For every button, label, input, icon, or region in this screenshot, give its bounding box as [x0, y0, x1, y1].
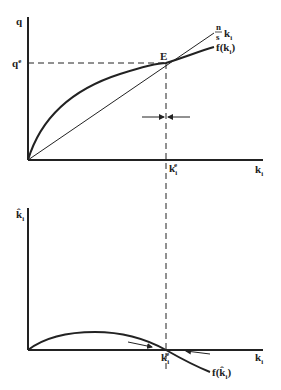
production-curve-label: f(ki): [216, 41, 235, 56]
bottom-panel: k̂i kie ki f(k̂i): [16, 208, 263, 381]
k-hat-curve: [28, 332, 210, 372]
solow-diagram: q qe E n s ki f(ki) kie ki k̂i kie ki f(…: [0, 0, 281, 390]
ns-line-label: ki: [224, 27, 232, 42]
arrow-left-bottom: [186, 351, 210, 354]
ns-k-line: [28, 33, 214, 160]
production-curve: [28, 47, 214, 160]
ns-fraction-num: n: [216, 22, 221, 32]
top-x-axis-label: ki: [255, 163, 263, 178]
bottom-k-equilibrium-label: kie: [161, 350, 169, 366]
q-equilibrium-label: qe: [12, 57, 21, 69]
top-y-axis-label: q: [16, 15, 23, 27]
top-panel: q qe E n s ki f(ki) kie ki: [12, 15, 263, 372]
top-k-equilibrium-label: kie: [169, 161, 177, 177]
bottom-x-axis-label: ki: [255, 351, 263, 366]
bottom-y-axis-label: k̂i: [16, 208, 24, 223]
equilibrium-point-label: E: [160, 50, 167, 62]
k-hat-curve-label: f(k̂i): [212, 366, 231, 381]
